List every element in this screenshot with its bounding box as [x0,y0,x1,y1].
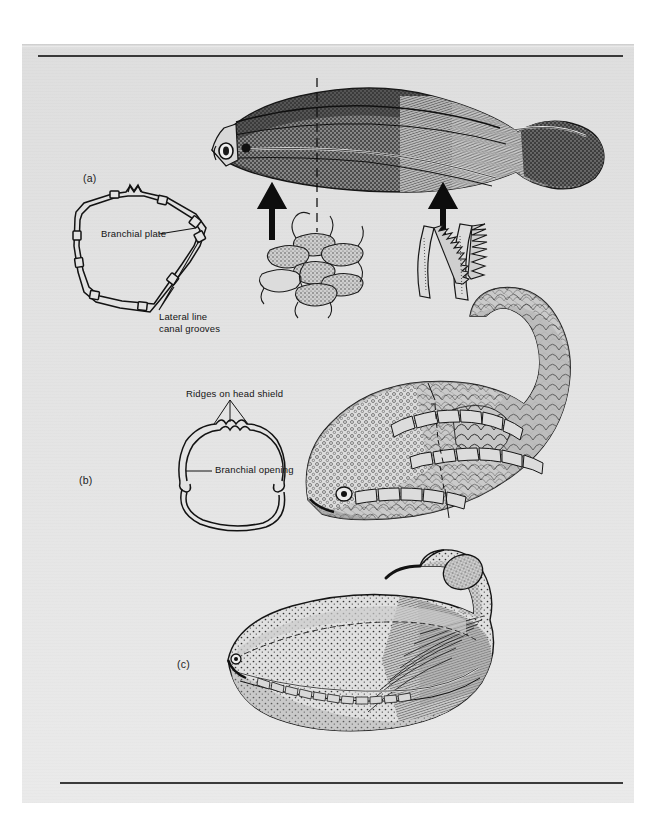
label-lateral-line-line1: Lateral line [159,311,207,322]
panel-caption-a: (a) [83,172,96,184]
bottom-rule [60,782,623,784]
panel-caption-b: (b) [79,474,92,486]
label-branchial-opening: Branchial opening [215,464,294,476]
panel-caption-c: (c) [177,658,190,670]
label-lateral-line-line2: canal grooves [159,323,220,334]
figure-plate: (a) (b) (c) Branchial plate Lateral line… [0,0,660,828]
label-branchial-plate: Branchial plate [101,228,166,240]
top-rule [38,55,623,57]
label-ridges-on-head-shield: Ridges on head shield [186,388,283,400]
label-lateral-line-canal-grooves: Lateral line canal grooves [159,311,220,334]
page-sheet [22,47,634,803]
